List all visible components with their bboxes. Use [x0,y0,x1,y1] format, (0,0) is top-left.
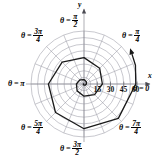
angle-label-theta-7pi-4: θ = 7π 4 [119,120,141,137]
y-axis-label: y [78,1,81,9]
angle-label-theta-pi-2: θ = π 2 [60,13,78,30]
pi-over-4-fraction: π 4 [134,28,140,45]
grid-spoke [47,84,84,121]
theta-prefix: θ = [119,123,129,132]
angle-label-theta-pi-4: θ = π 4 [122,28,140,45]
angle-label-theta-3pi-2: θ = 3π 2 [60,141,82,158]
grid-spoke [84,47,121,84]
theta-prefix: θ = [60,16,70,25]
radial-tick-label-60: 60 [129,86,142,94]
x-axis-label: x [148,72,152,80]
polar-spiral-figure: y x θ = π 2 θ = 3π 4 θ = π 4 θ = π θ = 0… [0,0,167,162]
three-pi-over-4-fraction: 3π 4 [33,28,43,45]
five-pi-over-4-fraction: 5π 4 [33,120,43,137]
theta-value: π [20,79,24,88]
theta-prefix: θ = [21,123,31,132]
angle-label-theta-3pi-4: θ = 3π 4 [21,28,43,45]
three-pi-over-2-fraction: 3π 2 [72,141,82,158]
theta-prefix: θ = [60,144,70,153]
theta-prefix: θ = [21,31,31,40]
seven-pi-over-4-fraction: 7π 4 [131,120,141,137]
theta-value: 0 [145,84,149,93]
polar-plot-canvas [0,0,167,162]
angle-label-theta-5pi-4: θ = 5π 4 [21,120,43,137]
theta-prefix: θ = [122,31,132,40]
theta-prefix: θ = [8,79,18,88]
radial-tick-label-30: 30 [104,86,117,94]
radial-tick-label-15: 15 [91,86,104,94]
pi-over-2-fraction: π 2 [72,13,78,30]
angle-label-theta-pi: θ = π [8,80,25,88]
